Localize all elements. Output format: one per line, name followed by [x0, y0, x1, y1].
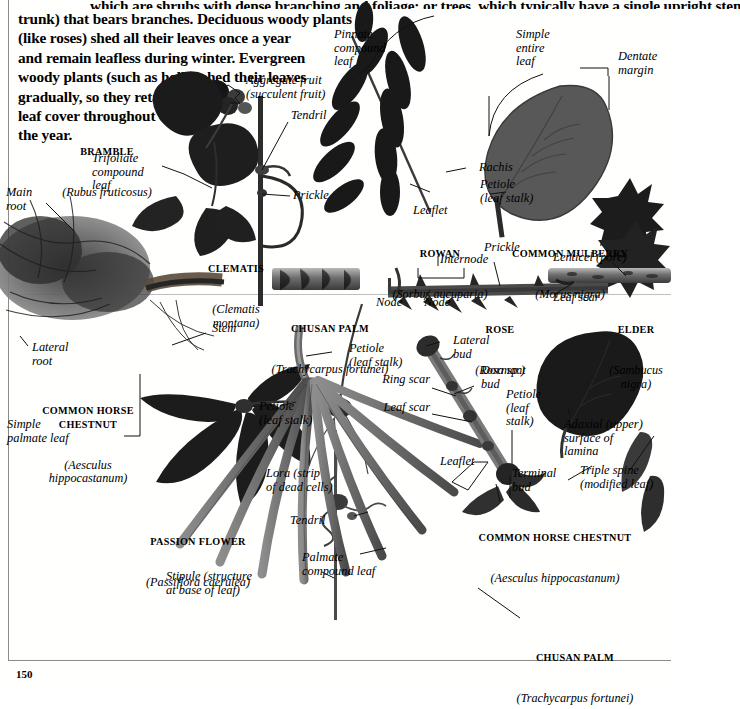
species-bramble-latin: (Rubus fruticosus) [32, 186, 182, 200]
species-clematis-common: CLEMATIS [186, 262, 286, 276]
species-rose-latin: (Rosa sp.) [455, 364, 545, 378]
species-horse-chestnut-right-latin: (Aesculus hippocastanum) [442, 572, 668, 586]
species-rowan-common: ROWAN [370, 247, 510, 261]
label-petiole-mulberry: Petiole (leaf stalk) [480, 178, 533, 205]
species-passion-flower-common: PASSION FLOWER [108, 535, 288, 549]
label-palmate-compound-leaf: Palmate compound leaf [302, 551, 375, 578]
species-horse-chestnut-right-common: COMMON HORSE CHESTNUT [442, 531, 668, 545]
species-rose-common: ROSE [455, 323, 545, 337]
label-triple-spine: Triple spine (modified leaf) [580, 464, 653, 491]
species-elder-latin: (Sambucus nigra) [596, 364, 676, 391]
species-chusan-palm-1-latin: (Trachycarpus fortunei) [240, 363, 420, 377]
species-chusan-palm-1: CHUSAN PALM (Trachycarpus fortunei) [240, 295, 420, 404]
species-elder: ELDER (Sambucus nigra) [596, 296, 676, 418]
label-simple-entire-leaf: Simple entire leaf [516, 28, 550, 69]
species-horse-chestnut-left: COMMON HORSE CHESTNUT (Aesculus hippocas… [26, 377, 150, 513]
label-tendril-top: Tendril [291, 109, 326, 123]
label-lateral-root: Lateral root [32, 341, 69, 368]
label-pinnate-compound-leaf: Pinnate compound leaf [334, 28, 386, 69]
species-horse-chestnut-right: COMMON HORSE CHESTNUT (Aesculus hippocas… [442, 504, 668, 613]
label-prickle-clematis: Prickle [293, 189, 329, 203]
species-passion-flower: PASSION FLOWER (Passiflora caerulea) [108, 508, 288, 617]
label-main-root: Main root [6, 186, 32, 213]
species-horse-chestnut-left-latin: (Aesculus hippocastanum) [26, 459, 150, 486]
label-tendril-passion: Tendril [290, 514, 325, 528]
species-chusan-palm-1-common: CHUSAN PALM [240, 322, 420, 336]
label-dentate-margin: Dentate margin [618, 50, 657, 77]
label-aggregate-fruit: Aggregate fruit (succulent fruit) [246, 74, 326, 101]
species-rose: ROSE (Rosa sp.) [455, 296, 545, 405]
label-leaflet-hc: Leaflet [440, 455, 474, 469]
species-mulberry-common: COMMON MULBERRY [490, 247, 650, 261]
species-elder-common: ELDER [596, 323, 676, 337]
species-bramble: BRAMBLE (Rubus fruticosus) [32, 118, 182, 227]
label-terminal-bud: Terminal bud [512, 467, 556, 494]
label-adaxial-surface: Adaxial (upper) surface of lamina [564, 418, 643, 459]
species-chusan-palm-2-common: CHUSAN PALM [480, 651, 670, 665]
species-bramble-common: BRAMBLE [32, 145, 182, 159]
label-rachis: Rachis [479, 161, 513, 175]
label-petiole-hc-left: Petiole (leaf stalk) [259, 400, 312, 427]
label-leaflet-rowan: Leaflet [413, 204, 447, 218]
species-chusan-palm-2: CHUSAN PALM (Trachycarpus fortunei) [480, 624, 670, 709]
species-passion-flower-latin: (Passiflora caerulea) [108, 576, 288, 590]
species-horse-chestnut-left-common: COMMON HORSE CHESTNUT [26, 404, 150, 431]
page-number: 150 [16, 668, 33, 680]
label-lora: Lora (strip of dead cells) [266, 467, 333, 494]
species-chusan-palm-2-latin: (Trachycarpus fortunei) [480, 692, 670, 706]
